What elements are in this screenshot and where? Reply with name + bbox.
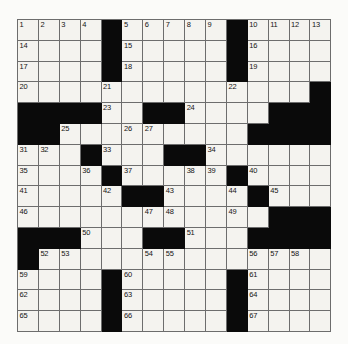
grid-cell[interactable] [39, 311, 60, 332]
grid-cell[interactable] [269, 270, 290, 291]
grid-cell[interactable]: 34 [206, 145, 227, 166]
grid-cell[interactable] [185, 62, 206, 83]
grid-cell[interactable] [290, 186, 311, 207]
grid-cell[interactable]: 38 [185, 166, 206, 187]
grid-cell[interactable] [122, 145, 143, 166]
grid-cell[interactable] [269, 41, 290, 62]
grid-cell[interactable] [143, 145, 164, 166]
grid-cell[interactable] [310, 270, 331, 291]
grid-cell[interactable] [81, 62, 102, 83]
grid-cell[interactable]: 21 [102, 82, 123, 103]
grid-cell[interactable] [227, 228, 248, 249]
grid-cell[interactable]: 3 [60, 20, 81, 41]
grid-cell[interactable] [227, 145, 248, 166]
grid-cell[interactable] [164, 41, 185, 62]
grid-cell[interactable] [206, 124, 227, 145]
grid-cell[interactable]: 12 [290, 20, 311, 41]
grid-cell[interactable]: 55 [164, 249, 185, 270]
grid-cell[interactable] [290, 82, 311, 103]
grid-cell[interactable] [185, 124, 206, 145]
grid-cell[interactable] [81, 207, 102, 228]
grid-cell[interactable] [310, 166, 331, 187]
grid-cell[interactable]: 63 [122, 290, 143, 311]
grid-cell[interactable]: 8 [185, 20, 206, 41]
grid-cell[interactable] [60, 166, 81, 187]
crossword-grid[interactable]: 1234567891011121314151617181920212223242… [17, 19, 331, 332]
grid-cell[interactable]: 10 [248, 20, 269, 41]
grid-cell[interactable] [60, 41, 81, 62]
grid-cell[interactable] [290, 166, 311, 187]
grid-cell[interactable]: 37 [122, 166, 143, 187]
grid-cell[interactable] [206, 186, 227, 207]
grid-cell[interactable]: 20 [18, 82, 39, 103]
grid-cell[interactable] [60, 62, 81, 83]
grid-cell[interactable]: 41 [18, 186, 39, 207]
grid-cell[interactable] [122, 249, 143, 270]
grid-cell[interactable] [102, 249, 123, 270]
grid-cell[interactable] [81, 270, 102, 291]
grid-cell[interactable] [227, 249, 248, 270]
grid-cell[interactable] [39, 207, 60, 228]
grid-cell[interactable] [102, 207, 123, 228]
grid-cell[interactable]: 65 [18, 311, 39, 332]
grid-cell[interactable]: 25 [60, 124, 81, 145]
grid-cell[interactable]: 23 [102, 103, 123, 124]
grid-cell[interactable]: 54 [143, 249, 164, 270]
grid-cell[interactable] [143, 270, 164, 291]
grid-cell[interactable] [164, 124, 185, 145]
grid-cell[interactable]: 13 [310, 20, 331, 41]
grid-cell[interactable] [310, 41, 331, 62]
grid-cell[interactable] [248, 103, 269, 124]
grid-cell[interactable] [39, 186, 60, 207]
grid-cell[interactable]: 15 [122, 41, 143, 62]
grid-cell[interactable]: 7 [164, 20, 185, 41]
grid-cell[interactable] [164, 166, 185, 187]
grid-cell[interactable]: 4 [81, 20, 102, 41]
grid-cell[interactable] [143, 166, 164, 187]
grid-cell[interactable] [122, 103, 143, 124]
grid-cell[interactable] [81, 290, 102, 311]
grid-cell[interactable] [206, 228, 227, 249]
grid-cell[interactable]: 50 [81, 228, 102, 249]
grid-cell[interactable] [143, 311, 164, 332]
grid-cell[interactable]: 62 [18, 290, 39, 311]
grid-cell[interactable] [122, 207, 143, 228]
grid-cell[interactable] [206, 290, 227, 311]
grid-cell[interactable] [81, 124, 102, 145]
grid-cell[interactable] [60, 207, 81, 228]
grid-cell[interactable]: 40 [248, 166, 269, 187]
grid-cell[interactable] [39, 270, 60, 291]
grid-cell[interactable] [39, 41, 60, 62]
grid-cell[interactable] [164, 82, 185, 103]
grid-cell[interactable]: 36 [81, 166, 102, 187]
grid-cell[interactable] [185, 311, 206, 332]
grid-cell[interactable]: 42 [102, 186, 123, 207]
grid-cell[interactable] [81, 186, 102, 207]
grid-cell[interactable]: 56 [248, 249, 269, 270]
grid-cell[interactable]: 16 [248, 41, 269, 62]
grid-cell[interactable] [206, 270, 227, 291]
grid-cell[interactable] [39, 166, 60, 187]
grid-cell[interactable] [122, 82, 143, 103]
grid-cell[interactable] [290, 290, 311, 311]
grid-cell[interactable]: 47 [143, 207, 164, 228]
grid-cell[interactable]: 19 [248, 62, 269, 83]
grid-cell[interactable]: 67 [248, 311, 269, 332]
grid-cell[interactable]: 52 [39, 249, 60, 270]
grid-cell[interactable] [81, 41, 102, 62]
grid-cell[interactable] [164, 311, 185, 332]
grid-cell[interactable] [206, 103, 227, 124]
grid-cell[interactable] [81, 82, 102, 103]
grid-cell[interactable] [310, 311, 331, 332]
grid-cell[interactable] [290, 145, 311, 166]
grid-cell[interactable] [122, 228, 143, 249]
grid-cell[interactable] [185, 207, 206, 228]
grid-cell[interactable]: 26 [122, 124, 143, 145]
grid-cell[interactable]: 59 [18, 270, 39, 291]
grid-cell[interactable] [164, 290, 185, 311]
grid-cell[interactable]: 57 [269, 249, 290, 270]
grid-cell[interactable]: 49 [227, 207, 248, 228]
grid-cell[interactable]: 45 [269, 186, 290, 207]
grid-cell[interactable]: 24 [185, 103, 206, 124]
grid-cell[interactable]: 5 [122, 20, 143, 41]
